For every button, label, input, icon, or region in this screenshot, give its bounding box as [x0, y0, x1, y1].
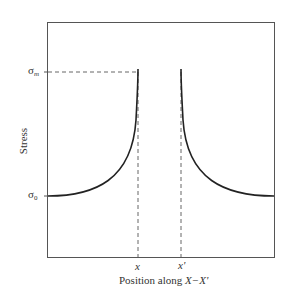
plot-frame [48, 23, 275, 258]
x-axis-label: Position along X−X' [119, 274, 208, 286]
x-marker-label: x [135, 260, 140, 272]
right-stress-curve [181, 69, 274, 196]
left-stress-curve [48, 69, 138, 196]
sigma-m-label: σm [28, 64, 39, 78]
stress-plot [0, 0, 287, 293]
x-prime-marker-label: x' [178, 259, 185, 271]
sigma-0-subscript: 0 [34, 194, 38, 202]
sigma-0-label: σ0 [28, 188, 37, 202]
sigma-m-subscript: m [34, 70, 39, 78]
x-axis-label-prefix: Position along [119, 274, 185, 286]
y-axis-label: Stress [17, 128, 29, 154]
x-axis-label-var: X−X' [185, 274, 208, 286]
